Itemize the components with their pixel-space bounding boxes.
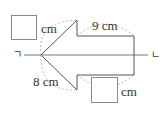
bottom-left-length-label: 8 cm [33, 75, 59, 88]
bottom-right-answer-box[interactable] [91, 77, 118, 103]
bottom-right-unit-label: cm [121, 85, 137, 98]
symmetric-arrow-diagram: ㄱ ㄴ cm 9 cm 8 cm cm [0, 0, 166, 118]
top-left-unit-label: cm [41, 22, 57, 35]
top-left-answer-box[interactable] [11, 15, 37, 40]
axis-end-label: ㄴ [151, 48, 160, 61]
top-right-length-label: 9 cm [92, 19, 118, 32]
axis-start-label: ㄱ [13, 48, 22, 61]
